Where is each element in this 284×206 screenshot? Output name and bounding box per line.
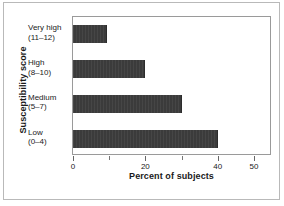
x-axis-tick (218, 156, 219, 161)
x-axis-tick-label: 50 (249, 162, 258, 171)
category-label: Low(0–4) (28, 128, 69, 147)
x-axis-tick-label: 20 (141, 162, 150, 171)
x-axis-tick-label: 0 (71, 162, 75, 171)
y-axis-title-text: Susceptibility score (18, 46, 28, 133)
category-label-line2: (11–12) (28, 33, 69, 43)
x-axis-tick-label: 40 (213, 162, 222, 171)
x-axis-title: Percent of subjects (72, 171, 271, 181)
x-axis-tick (145, 156, 146, 161)
category-label-line1: Low (28, 128, 69, 138)
bar (73, 25, 107, 43)
bars-container (73, 17, 270, 154)
category-label: Very high(11–12) (28, 23, 69, 42)
y-axis-tick-labels: Very high(11–12)High(8–10)Medium(5–7)Low… (30, 16, 71, 155)
bar (73, 130, 218, 148)
x-axis-tick (73, 156, 74, 161)
category-label: High(8–10) (28, 58, 69, 77)
category-label: Medium(5–7) (28, 93, 69, 112)
x-axis-tick (254, 156, 255, 161)
x-axis-tick (182, 156, 183, 160)
figure-frame: Susceptibility score Very high(11–12)Hig… (3, 2, 280, 200)
category-label-line2: (8–10) (28, 68, 69, 78)
category-label-line2: (5–7) (28, 102, 69, 112)
category-label-line1: Very high (28, 23, 69, 33)
plot-area: 0204050 (72, 16, 271, 155)
x-axis-tick (109, 156, 110, 160)
bar (73, 95, 182, 113)
category-label-line1: High (28, 58, 69, 68)
bar (73, 60, 145, 78)
category-label-line1: Medium (28, 93, 69, 103)
category-label-line2: (0–4) (28, 137, 69, 147)
